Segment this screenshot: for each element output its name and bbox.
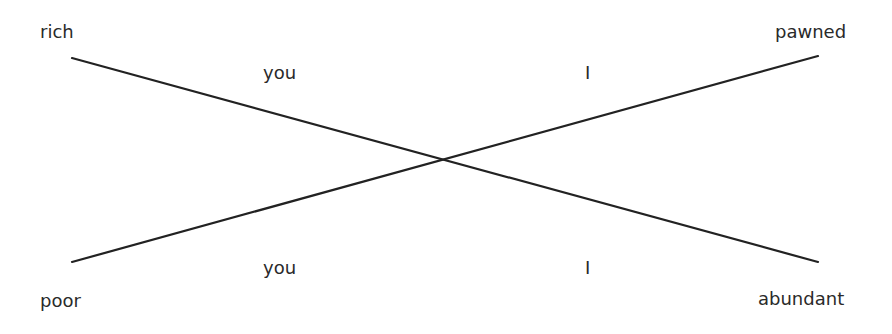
corner-label-poor: poor	[40, 292, 81, 310]
mid-label-i-bottom: I	[585, 259, 590, 277]
corner-label-pawned: pawned	[775, 23, 846, 41]
corner-label-abundant: abundant	[758, 290, 844, 308]
corner-label-rich: rich	[40, 23, 74, 41]
mid-label-you-top: you	[263, 64, 296, 82]
mid-label-you-bottom: you	[263, 259, 296, 277]
crossing-diagram: rich pawned poor abundant you I you I	[0, 0, 892, 334]
diagram-lines	[0, 0, 892, 334]
mid-label-i-top: I	[585, 64, 590, 82]
